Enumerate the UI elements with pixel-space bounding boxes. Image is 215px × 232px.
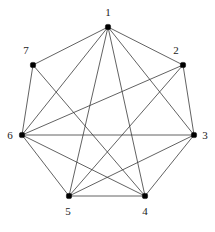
vertex-label-1: 1: [105, 6, 111, 18]
label-layer: 1234567: [7, 6, 208, 217]
graph-vertex-5: [66, 193, 71, 198]
graph-vertex-3: [191, 132, 196, 137]
graph-vertex-2: [180, 62, 185, 67]
vertex-label-2: 2: [173, 44, 179, 56]
graph-vertex-6: [19, 132, 24, 137]
graph-edge: [33, 65, 145, 196]
graph-edge: [22, 65, 33, 135]
graph-edge: [22, 135, 145, 196]
graph-edge: [33, 27, 108, 65]
graph-edge: [145, 135, 194, 196]
vertex-label-3: 3: [202, 129, 208, 141]
vertex-layer: [19, 24, 196, 198]
graph-figure: 1234567: [0, 0, 215, 232]
graph-edge: [22, 65, 183, 135]
graph-vertex-4: [142, 193, 147, 198]
vertex-label-7: 7: [23, 44, 29, 56]
graph-edge: [69, 27, 108, 196]
graph-edge: [183, 65, 194, 135]
graph-edge: [69, 65, 183, 196]
graph-edge: [22, 27, 108, 135]
graph-edge: [108, 27, 183, 65]
graph-canvas: 1234567: [0, 0, 215, 232]
vertex-label-4: 4: [142, 205, 148, 217]
graph-vertex-1: [105, 24, 110, 29]
graph-edge: [69, 135, 194, 196]
vertex-label-5: 5: [65, 205, 71, 217]
edge-layer: [22, 27, 194, 196]
vertex-label-6: 6: [7, 129, 13, 141]
graph-vertex-7: [30, 62, 35, 67]
graph-edge: [22, 135, 69, 196]
graph-edge: [108, 27, 194, 135]
graph-edge: [108, 27, 145, 196]
